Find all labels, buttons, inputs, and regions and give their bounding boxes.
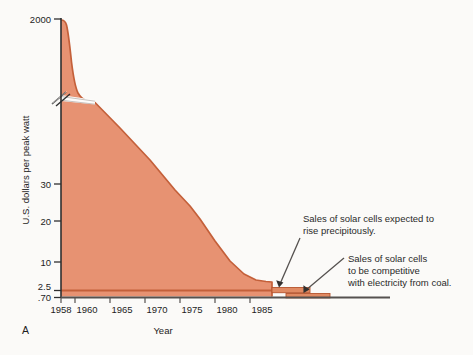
x-axis-title: Year (153, 325, 172, 336)
annotation-coal-line-2: to be competitive (348, 265, 420, 276)
x-tick-label-1985: 1985 (251, 304, 272, 315)
panel-letter-label: A (22, 324, 29, 336)
y-tick-label-30: 30 (40, 179, 51, 190)
x-tick-label-1960: 1960 (76, 304, 97, 315)
y-tick-label-10: 10 (40, 257, 51, 268)
x-tick-label-1980: 1980 (216, 304, 237, 315)
x-tick-label-1975: 1975 (181, 304, 202, 315)
annotation-sales-rise-line-1: Sales of solar cells expected to (303, 213, 434, 224)
y-tick-label-2-5: 2.5 (38, 281, 51, 292)
annotation-coal-line-3: with electricity from coal. (347, 277, 451, 288)
y-tick-label-2000: 2000 (30, 14, 51, 25)
annotation-coal-line-1: Sales of solar cells (348, 253, 427, 264)
y-tick-label-070: .70 (38, 292, 51, 303)
solar-cell-cost-chart: 2000 30 20 10 2.5 .70 1958 1960 1965 197… (0, 0, 473, 355)
y-tick-label-20: 20 (40, 216, 51, 227)
annotation-sales-rise-line-2: rise precipitously. (303, 225, 376, 236)
y-axis-title: U.S. dollars per peak watt (20, 115, 31, 224)
x-tick-label-1965: 1965 (111, 304, 132, 315)
x-tick-label-1958: 1958 (50, 304, 71, 315)
x-tick-label-1970: 1970 (146, 304, 167, 315)
